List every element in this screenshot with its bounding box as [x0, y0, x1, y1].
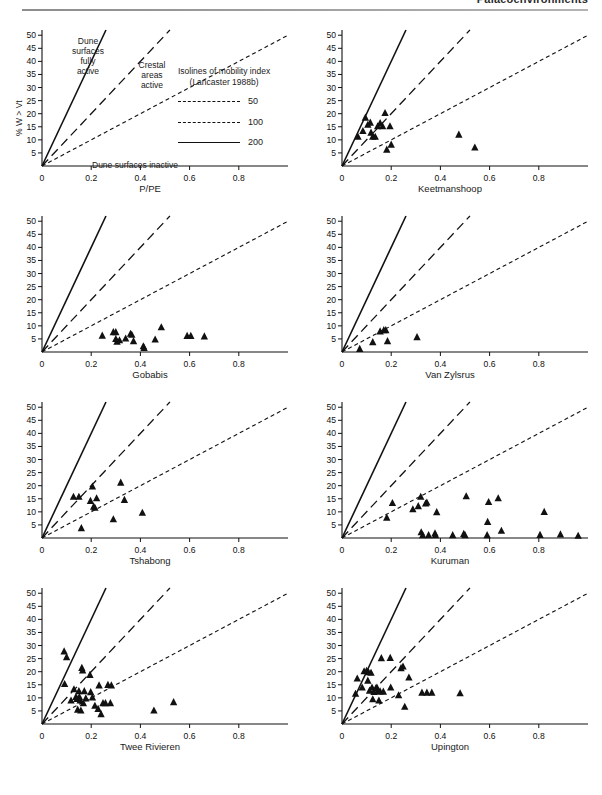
- y-tick-label: 15: [326, 494, 336, 504]
- y-tick-label: 20: [326, 109, 336, 119]
- x-axis-label: P/PE: [0, 183, 300, 194]
- x-tick-label: 0.4: [134, 359, 146, 369]
- isoline-200: [42, 588, 106, 724]
- y-tick-label: 25: [26, 468, 36, 478]
- y-tick-label: 45: [326, 601, 336, 611]
- y-tick-label: 35: [26, 69, 36, 79]
- legend-swatch-100-icon: [178, 122, 240, 123]
- data-point-marker: [433, 508, 440, 515]
- data-point-marker: [384, 337, 391, 344]
- y-tick-label: 25: [326, 96, 336, 106]
- legend-label-200: 200: [248, 137, 263, 148]
- y-tick-label: 50: [326, 216, 336, 226]
- isoline-50: [42, 221, 288, 352]
- y-tick-label: 50: [326, 588, 336, 598]
- y-tick-label: 20: [26, 481, 36, 491]
- data-point-marker: [70, 685, 77, 692]
- y-tick-label: 45: [26, 43, 36, 53]
- data-point-marker: [99, 332, 106, 339]
- plot-svg-1: 510152025303540455000.20.40.60.8: [300, 18, 600, 204]
- y-tick-label: 50: [26, 216, 36, 226]
- panel-grid: 510152025303540455000.20.40.60.8 % W > V…: [0, 18, 602, 776]
- data-point-marker: [87, 497, 94, 504]
- x-tick-label: 0.4: [434, 173, 446, 183]
- y-tick-label: 45: [26, 229, 36, 239]
- x-tick-label: 0: [340, 545, 345, 555]
- x-tick-label: 0.6: [484, 545, 496, 555]
- legend-entry-50: 50: [178, 96, 270, 107]
- annotation-fully-active-line-2: surfaces: [60, 46, 116, 56]
- y-tick-label: 40: [326, 428, 336, 438]
- x-tick-label: 0.4: [434, 359, 446, 369]
- y-tick-label: 15: [26, 680, 36, 690]
- y-tick-label: 10: [26, 693, 36, 703]
- x-tick-label: 0.8: [233, 173, 245, 183]
- x-tick-label: 0: [40, 731, 45, 741]
- data-point-marker: [413, 333, 420, 340]
- y-tick-label: 40: [326, 56, 336, 66]
- annotation-inactive: Dune surfaces inactive: [92, 160, 178, 170]
- y-tick-label: 45: [26, 415, 36, 425]
- legend-swatch-200-icon: [178, 142, 240, 143]
- y-tick-label: 15: [26, 308, 36, 318]
- panel-caption-1: Keetmanshoop: [300, 183, 600, 194]
- data-point-marker: [87, 688, 94, 695]
- isoline-100: [342, 588, 470, 724]
- data-point-marker: [405, 673, 412, 680]
- annotation-crestal-line-3: active: [128, 80, 176, 90]
- legend: Isolines of mobility index (Lancaster 19…: [178, 66, 270, 148]
- data-point-marker: [81, 687, 88, 694]
- data-point-marker: [139, 509, 146, 516]
- data-point-marker: [389, 499, 396, 506]
- isoline-200: [342, 588, 406, 724]
- y-tick-label: 25: [326, 654, 336, 664]
- data-point-marker: [354, 674, 361, 681]
- data-point-marker: [362, 114, 369, 121]
- panel-caption-2: Gobabis: [0, 369, 300, 380]
- header-rule: [22, 9, 588, 11]
- data-point-marker: [425, 531, 432, 538]
- data-point-marker: [93, 494, 100, 501]
- figure-page: Palaeoenvironments 510152025303540455000…: [0, 0, 602, 795]
- panel-keetmanshoop: 510152025303540455000.20.40.60.8 Keetman…: [300, 18, 600, 204]
- data-point-marker: [415, 502, 422, 509]
- isoline-50: [342, 593, 588, 724]
- data-point-marker: [498, 527, 505, 534]
- isoline-200: [42, 402, 106, 538]
- x-tick-label: 0.2: [85, 545, 97, 555]
- y-tick-label: 15: [326, 680, 336, 690]
- y-tick-label: 20: [26, 109, 36, 119]
- y-tick-label: 20: [26, 667, 36, 677]
- plot-svg-6: 510152025303540455000.20.40.60.8: [0, 576, 300, 762]
- isoline-50: [42, 407, 288, 538]
- y-tick-label: 5: [31, 148, 36, 158]
- data-point-marker: [121, 496, 128, 503]
- panel-twee-rivieren: 510152025303540455000.20.40.60.8 Twee Ri…: [0, 576, 300, 776]
- data-point-marker: [369, 695, 376, 702]
- data-point-marker: [387, 683, 394, 690]
- y-tick-label: 45: [26, 601, 36, 611]
- isoline-100: [42, 216, 170, 352]
- isoline-200: [42, 216, 106, 352]
- data-point-marker: [485, 498, 492, 505]
- data-point-marker: [158, 323, 165, 330]
- annotation-fully-active-line-1: Dune: [60, 36, 116, 46]
- y-tick-label: 40: [26, 56, 36, 66]
- x-tick-label: 0.2: [385, 731, 397, 741]
- isoline-100: [42, 402, 170, 538]
- x-tick-label: 0.6: [184, 731, 196, 741]
- data-point-marker: [401, 703, 408, 710]
- x-tick-label: 0.2: [85, 173, 97, 183]
- legend-entry-200: 200: [178, 137, 270, 148]
- data-point-marker: [541, 508, 548, 515]
- y-tick-label: 30: [326, 269, 336, 279]
- y-tick-label: 35: [26, 255, 36, 265]
- data-point-marker: [423, 498, 430, 505]
- y-tick-label: 50: [26, 402, 36, 412]
- x-tick-label: 0.2: [385, 173, 397, 183]
- x-tick-label: 0.6: [484, 731, 496, 741]
- y-tick-label: 40: [26, 242, 36, 252]
- x-tick-label: 0.4: [434, 545, 446, 555]
- x-tick-label: 0.8: [233, 359, 245, 369]
- annotation-fully-active-line-3: fully: [60, 56, 116, 66]
